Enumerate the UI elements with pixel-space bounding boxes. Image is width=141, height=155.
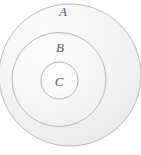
- set-label-a: A: [58, 4, 67, 19]
- nested-circles-diagram: A B C: [0, 0, 141, 155]
- set-label-c: C: [55, 74, 64, 89]
- figure-container: A B C: [0, 0, 141, 155]
- set-label-b: B: [56, 40, 64, 55]
